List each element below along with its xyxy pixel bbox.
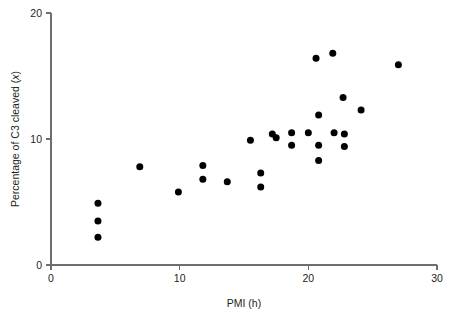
scatter-point xyxy=(175,188,182,195)
scatter-point xyxy=(224,178,231,185)
figure-background xyxy=(0,0,457,317)
y-tick-label: 0 xyxy=(36,259,42,271)
scatter-point xyxy=(273,134,280,141)
y-tick-label: 20 xyxy=(30,7,42,19)
x-tick-label: 0 xyxy=(48,272,54,284)
scatter-point xyxy=(395,61,402,68)
scatter-point xyxy=(315,112,322,119)
scatter-point xyxy=(136,163,143,170)
x-axis-title: PMI (h) xyxy=(227,297,261,309)
scatter-point xyxy=(94,234,101,241)
scatter-point xyxy=(247,137,254,144)
scatter-point xyxy=(94,217,101,224)
scatter-point xyxy=(288,142,295,149)
scatter-point xyxy=(331,129,338,136)
scatter-point xyxy=(340,94,347,101)
scatter-point xyxy=(315,157,322,164)
scatter-point xyxy=(288,129,295,136)
y-axis-title-paren: ) xyxy=(9,71,21,75)
scatter-point xyxy=(305,129,312,136)
scatter-point xyxy=(199,176,206,183)
scatter-plot-figure: 0102030 01020 PMI (h) Percentage of C3 c… xyxy=(0,0,457,317)
scatter-point xyxy=(313,55,320,62)
y-axis-title: Percentage of C3 cleaved (x) xyxy=(9,71,21,207)
scatter-point xyxy=(315,142,322,149)
scatter-point xyxy=(257,170,264,177)
y-tick-label: 10 xyxy=(30,133,42,145)
x-tick-label: 10 xyxy=(174,272,186,284)
x-tick-label: 20 xyxy=(302,272,314,284)
scatter-point xyxy=(358,107,365,114)
scatter-point xyxy=(329,50,336,57)
scatter-point xyxy=(94,200,101,207)
scatter-point xyxy=(341,143,348,150)
scatter-point xyxy=(341,130,348,137)
y-axis-title-text: Percentage of C3 cleaved ( xyxy=(9,79,21,207)
scatter-point xyxy=(257,183,264,190)
scatter-point xyxy=(199,162,206,169)
x-tick-label: 30 xyxy=(431,272,443,284)
